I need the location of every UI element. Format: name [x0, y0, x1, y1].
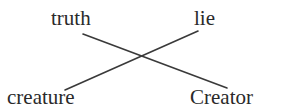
- label-truth: truth: [51, 8, 91, 29]
- label-lie: lie: [194, 8, 215, 29]
- label-creature: creature: [7, 87, 75, 108]
- label-creator: Creator: [190, 87, 253, 108]
- line-truth-to-creator: [83, 34, 227, 88]
- line-creature-to-lie: [65, 31, 198, 90]
- exchange-diagram: truth lie creature Creator: [0, 0, 282, 112]
